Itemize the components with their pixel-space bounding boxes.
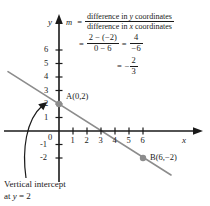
data-point-a bbox=[56, 101, 62, 107]
y-axis-arrowhead bbox=[55, 14, 63, 24]
formula-numeric-fraction-1: 2 − (−2) 0 − 6 bbox=[87, 33, 119, 54]
x-axis-label: x bbox=[182, 136, 186, 145]
numerator-suffix: coordinates bbox=[133, 12, 172, 21]
formula-equals-3: = bbox=[122, 39, 127, 49]
x-tick-label-2: 2 bbox=[85, 136, 89, 145]
numerator-prefix: difference in bbox=[87, 12, 130, 21]
y-tick-label-2: 2 bbox=[44, 99, 48, 108]
vertical-intercept-note-line2: at y = 2 bbox=[4, 192, 31, 201]
formula-line-1: m = difference in y coordinates differen… bbox=[66, 12, 174, 31]
fraction1-numerator: 2 − (−2) bbox=[87, 33, 119, 43]
formula-word-fraction: difference in y coordinates difference i… bbox=[85, 12, 174, 31]
y-tick-label-neg2: -2 bbox=[40, 153, 47, 162]
y-tick-label-5: 5 bbox=[44, 59, 48, 68]
y-tick-label-3: 3 bbox=[44, 86, 48, 95]
slope-formula: m = difference in y coordinates differen… bbox=[66, 12, 174, 76]
x-tick-label-6: 6 bbox=[141, 136, 145, 145]
plotted-line bbox=[8, 72, 171, 175]
vertical-intercept-note-line1: Vertical intercept bbox=[4, 180, 66, 189]
result-denominator: 3 bbox=[130, 67, 138, 77]
formula-numeric-fraction-2: 4 −6 bbox=[130, 33, 143, 54]
y-axis-label: y bbox=[48, 18, 52, 27]
result-numerator: 2 bbox=[130, 56, 138, 66]
data-point-b bbox=[140, 155, 146, 161]
formula-equals-1: = bbox=[77, 17, 82, 27]
x-tick-label-1: 1 bbox=[71, 136, 75, 145]
y-tick-label-neg1: -1 bbox=[40, 140, 47, 149]
denominator-suffix: coordinates bbox=[133, 22, 172, 31]
x-tick-label-3: 3 bbox=[99, 136, 103, 145]
note-prefix: at bbox=[4, 191, 13, 201]
formula-line-2: = 2 − (−2) 0 − 6 = 4 −6 bbox=[76, 33, 174, 54]
origin-label-0: 0 bbox=[48, 133, 52, 142]
y-tick-label-4: 4 bbox=[44, 72, 48, 81]
y-tick-label-6: 6 bbox=[44, 45, 48, 54]
x-tick-label-4: 4 bbox=[113, 136, 117, 145]
formula-m-symbol: m bbox=[66, 17, 72, 27]
formula-word-denominator: difference in x coordinates bbox=[85, 22, 174, 31]
denominator-prefix: difference in bbox=[87, 22, 130, 31]
formula-equals-4: = bbox=[117, 61, 122, 71]
formula-equals-2: = bbox=[79, 39, 84, 49]
figure-canvas: y x 6 5 4 3 2 1 0 -1 -2 1 2 3 4 5 6 A(0,… bbox=[0, 0, 210, 206]
x-tick-label-5: 5 bbox=[127, 136, 131, 145]
formula-result-fraction: 2 3 bbox=[130, 56, 138, 77]
fraction2-denominator: −6 bbox=[130, 44, 143, 54]
x-axis-arrowhead bbox=[193, 127, 203, 135]
formula-line-3: = − 2 3 bbox=[114, 56, 174, 77]
formula-word-numerator: difference in y coordinates bbox=[85, 12, 174, 21]
y-tick-label-1: 1 bbox=[44, 113, 48, 122]
fraction2-numerator: 4 bbox=[132, 33, 140, 43]
point-label-a: A(0,2) bbox=[66, 92, 88, 101]
note-suffix: = 2 bbox=[17, 191, 31, 201]
fraction1-denominator: 0 − 6 bbox=[92, 44, 114, 54]
point-label-b: B(6,−2) bbox=[150, 153, 177, 162]
